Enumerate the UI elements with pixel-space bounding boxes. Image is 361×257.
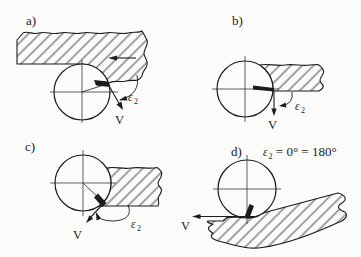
velocity-arrow-head-a — [117, 102, 124, 110]
epsilon2-angle-arc-b — [281, 92, 292, 106]
panel-label-c: c) — [25, 139, 35, 154]
velocity-arrow-head-b — [271, 109, 276, 117]
epsilon2-label-c: ε2 — [131, 218, 141, 233]
panel-label-a: a) — [26, 13, 36, 28]
epsilon2-arc-arrow-head-c — [96, 212, 101, 220]
panel-label-b: b) — [232, 13, 243, 28]
panel-b: b) V ε2 — [212, 13, 324, 132]
epsilon2-equation-d: ε2 = 0° = 180° — [263, 144, 337, 161]
velocity-label-c: V — [73, 228, 82, 242]
velocity-label-b: V — [268, 118, 277, 132]
panel-d: d) V ε2 = 0° = 180° — [181, 144, 346, 248]
figure-canvas: a) V ε2 b) V ε2 c) V ε — [0, 0, 361, 257]
epsilon2-arc-arrow-head-a — [119, 96, 127, 101]
panel-a: a) V ε2 — [17, 13, 147, 127]
velocity-label-a: V — [115, 113, 124, 127]
panel-c: c) V ε2 — [25, 139, 162, 242]
panel-label-d: d) — [231, 144, 242, 159]
velocity-label-d: V — [181, 219, 190, 233]
epsilon2-label-b: ε2 — [295, 100, 305, 115]
velocity-arrow-head-d — [192, 214, 201, 219]
milling-engagement-figure: a) V ε2 b) V ε2 c) V ε — [0, 0, 361, 257]
epsilon2-arc-arrow-head-b — [279, 103, 286, 108]
